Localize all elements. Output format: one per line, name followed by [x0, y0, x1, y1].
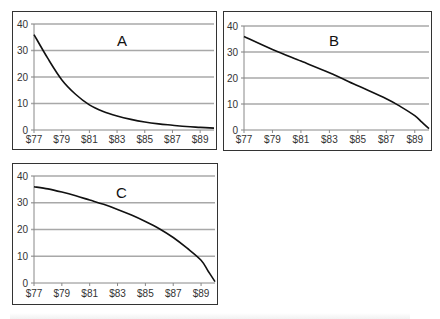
chart-panel-a: 010203040$77$79$81$83$85$87$89 A [12, 11, 217, 150]
y-tick-label: 10 [17, 98, 29, 109]
y-tick-label: 10 [17, 251, 29, 262]
y-tick-label: 20 [17, 72, 29, 83]
x-tick-label: $89 [192, 134, 209, 145]
y-tick-label: 40 [17, 171, 29, 182]
chart-c-label: C [116, 184, 127, 201]
y-tick-label: 40 [17, 19, 29, 30]
figure-caption-cutoff [10, 313, 410, 319]
x-tick-label: $87 [378, 134, 395, 145]
chart-panel-b: 010203040$77$79$81$83$85$87$89 B [223, 11, 432, 151]
y-tick-label: 20 [17, 224, 29, 235]
x-tick-label: $83 [109, 134, 126, 145]
chart-a-label: A [117, 32, 127, 49]
y-tick-label: 0 [22, 278, 28, 289]
x-tick-label: $79 [53, 134, 70, 145]
x-tick-label: $89 [193, 288, 210, 299]
x-tick-label: $85 [137, 288, 154, 299]
y-tick-label: 30 [227, 47, 239, 58]
x-tick-label: $81 [81, 288, 98, 299]
x-tick-label: $85 [350, 134, 367, 145]
y-tick-label: 30 [17, 197, 29, 208]
x-tick-label: $87 [165, 288, 182, 299]
x-tick-label: $83 [109, 288, 126, 299]
chart-panel-c: 010203040$77$79$81$83$85$87$89 C [12, 163, 218, 305]
x-tick-label: $79 [54, 288, 71, 299]
x-tick-label: $85 [136, 134, 153, 145]
chart-b-label: B [329, 32, 339, 49]
x-tick-label: $79 [264, 134, 281, 145]
x-tick-label: $87 [164, 134, 181, 145]
y-tick-label: 30 [17, 45, 29, 56]
y-tick-label: 20 [227, 73, 239, 84]
x-tick-label: $83 [321, 134, 338, 145]
x-tick-label: $89 [406, 134, 423, 145]
x-tick-label: $81 [81, 134, 98, 145]
x-tick-label: $77 [26, 288, 43, 299]
x-tick-label: $77 [26, 134, 43, 145]
series-line-b [244, 36, 429, 128]
y-tick-label: 10 [227, 99, 239, 110]
chart-a-plot: 010203040$77$79$81$83$85$87$89 [13, 12, 218, 151]
x-tick-label: $77 [236, 134, 253, 145]
y-tick-label: 40 [227, 21, 239, 32]
x-tick-label: $81 [293, 134, 310, 145]
